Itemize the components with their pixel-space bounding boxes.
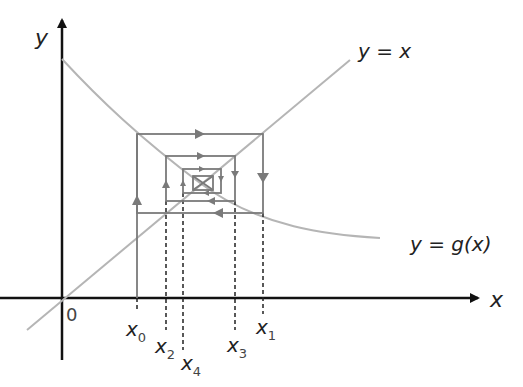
x-axis-label: x <box>489 287 504 312</box>
y-axis-label: y <box>34 25 49 50</box>
arrow-left-icon <box>207 197 215 205</box>
cobweb-path <box>137 134 263 298</box>
arrow-right-icon <box>197 152 205 160</box>
x0-label: x0 <box>125 317 146 345</box>
arrow-left-icon <box>213 208 223 218</box>
dashed-projections <box>137 193 263 350</box>
arrow-down-icon <box>231 171 239 178</box>
direction-arrows <box>132 129 269 218</box>
origin-label: 0 <box>66 304 77 325</box>
cobweb-diagram: y x 0 y = x y = g(x) x0 x2 x4 x3 x1 <box>0 0 523 387</box>
x1-label: x1 <box>255 315 276 343</box>
identity-line-label: y = x <box>357 39 411 63</box>
identity-line <box>27 60 350 330</box>
arrow-down-icon <box>257 173 269 183</box>
arrow-right-icon <box>195 129 205 139</box>
iterate-labels: x0 x2 x4 x3 x1 <box>125 315 276 379</box>
x2-label: x2 <box>154 334 175 362</box>
arrow-up-icon <box>162 180 170 188</box>
x3-label: x3 <box>226 333 247 361</box>
g-curve-label: y = g(x) <box>409 232 491 256</box>
arrow-up-icon <box>180 180 186 186</box>
arrow-down-icon <box>218 176 224 182</box>
x4-label: x4 <box>180 351 201 379</box>
arrow-right-icon <box>199 166 205 172</box>
arrow-up-icon <box>132 195 142 205</box>
